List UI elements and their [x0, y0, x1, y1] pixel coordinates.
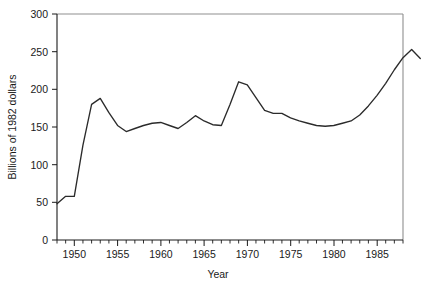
x-axis-major-ticks: 1950 1955 1960 1965 1970 1975 1980 1985: [63, 240, 389, 260]
y-tick-label-0: 0: [42, 234, 48, 246]
x-tick-label-1970: 1970: [236, 248, 260, 260]
x-tick-label-1955: 1955: [106, 248, 130, 260]
y-tick-label-50: 50: [36, 196, 48, 208]
data-series-line: [57, 49, 420, 203]
chart-figure: 300 250 200 150 100 50 0 1950 1955 1960 …: [0, 0, 425, 289]
x-tick-label-1985: 1985: [366, 248, 390, 260]
line-chart: 300 250 200 150 100 50 0 1950 1955 1960 …: [0, 0, 425, 289]
x-axis-minor-ticks: [57, 240, 403, 244]
y-tick-label-200: 200: [30, 83, 48, 95]
y-axis-ticks: 300 250 200 150 100 50 0: [30, 8, 57, 246]
y-axis-title: Billions of 1982 dollars: [6, 74, 18, 179]
y-tick-label-250: 250: [30, 46, 48, 58]
y-tick-label-300: 300: [30, 8, 48, 20]
x-tick-label-1960: 1960: [149, 248, 173, 260]
plot-frame: [57, 14, 403, 240]
x-tick-label-1965: 1965: [192, 248, 216, 260]
y-tick-label-150: 150: [30, 121, 48, 133]
x-tick-label-1975: 1975: [279, 248, 303, 260]
y-tick-label-100: 100: [30, 159, 48, 171]
x-tick-label-1980: 1980: [322, 248, 346, 260]
x-tick-label-1950: 1950: [63, 248, 87, 260]
x-axis-title: Year: [207, 268, 229, 280]
